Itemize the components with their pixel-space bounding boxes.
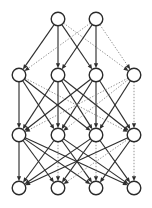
arrowhead-icon (50, 124, 54, 129)
arrowhead-icon (17, 123, 21, 128)
node-L2-1[interactable] (12, 68, 26, 82)
edge-solid (24, 25, 54, 68)
node-L3-2[interactable] (51, 128, 65, 142)
arrowhead-icon (88, 64, 93, 69)
node-L3-4[interactable] (127, 128, 141, 142)
edge-solid (62, 25, 91, 68)
node-L2-2[interactable] (51, 68, 65, 82)
arrowhead-icon (132, 123, 136, 128)
edge-solid (27, 138, 127, 184)
edge-solid (63, 25, 92, 68)
arrowhead-icon (94, 123, 98, 128)
node-L2-3[interactable] (89, 68, 103, 82)
node-L4-1[interactable] (12, 181, 26, 195)
node-L1-1[interactable] (51, 12, 65, 26)
arrowhead-icon (56, 123, 60, 128)
node-L4-2[interactable] (51, 181, 65, 195)
edge-solid (24, 81, 54, 127)
node-L2-4[interactable] (127, 68, 141, 82)
arrowhead-icon (132, 176, 136, 181)
arrowhead-icon (94, 63, 98, 68)
edge-dotted (25, 78, 126, 131)
node-L3-3[interactable] (89, 128, 103, 142)
edge-dotted (65, 79, 128, 129)
edge-layer (19, 23, 134, 184)
edge-dotted (63, 23, 126, 69)
arrowhead-icon (17, 176, 21, 181)
network-diagram (0, 0, 152, 208)
arrowhead-icon (56, 63, 60, 68)
edge-solid (101, 141, 130, 181)
node-L4-4[interactable] (127, 181, 141, 195)
node-L1-2[interactable] (89, 12, 103, 26)
network-graph-canvas (0, 0, 152, 208)
edge-solid (64, 139, 127, 183)
edge-solid (24, 79, 88, 129)
edge-solid (27, 139, 91, 183)
arrowhead-icon (100, 177, 105, 182)
arrowhead-icon (62, 64, 67, 69)
edge-solid (25, 138, 125, 184)
edge-solid (63, 79, 126, 129)
node-L3-1[interactable] (12, 128, 26, 142)
arrowhead-icon (56, 176, 60, 181)
node-L4-3[interactable] (89, 181, 103, 195)
arrowhead-icon (94, 176, 98, 181)
